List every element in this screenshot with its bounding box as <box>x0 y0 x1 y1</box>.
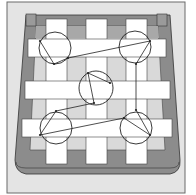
vertex-dot <box>39 134 41 136</box>
vertex-dot <box>149 40 151 42</box>
vertex-dot <box>123 117 125 119</box>
vertex-dot <box>109 82 111 84</box>
vertex-dot <box>87 72 89 74</box>
vertex-dot <box>135 109 137 111</box>
vertex-dot <box>55 110 57 112</box>
vertex-dot <box>93 102 95 104</box>
corner-post-left <box>26 14 36 26</box>
diagram-canvas <box>0 0 196 195</box>
vertex-dot <box>149 134 151 136</box>
vertex-dot <box>67 57 69 59</box>
vertex-dot <box>135 63 137 65</box>
corner-post-right <box>157 14 167 26</box>
horizontal-strap <box>25 81 170 99</box>
vertex-dot <box>39 40 41 42</box>
vertex-dot <box>53 63 55 65</box>
woven-seat-diagram <box>0 0 196 195</box>
